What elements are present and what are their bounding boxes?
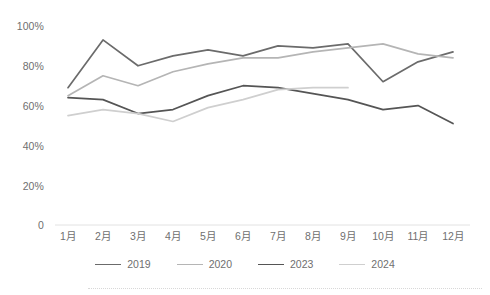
x-tick-label: 4月 [156,228,190,243]
x-tick-label: 12月 [436,228,470,243]
x-tick-label: 7月 [261,228,295,243]
legend-swatch-icon [177,264,203,265]
legend-item-2023[interactable]: 2023 [258,258,313,270]
x-tick-label: 2月 [86,228,120,243]
x-tick-label: 9月 [331,228,365,243]
legend-item-2024[interactable]: 2024 [339,258,394,270]
plot-area [0,0,490,295]
legend-swatch-icon [258,264,284,265]
x-tick-label: 6月 [226,228,260,243]
legend-swatch-icon [95,264,121,265]
chart-legend: 2019 2020 2023 2024 [0,258,490,270]
legend-label: 2024 [371,258,394,270]
x-tick-label: 8月 [296,228,330,243]
x-tick-label: 11月 [401,228,435,243]
line-chart: 100% 80% 60% 40% 20% 0 1月 2月 3月 4月 5月 6月… [0,0,490,295]
x-tick-label: 10月 [366,228,400,243]
legend-item-2020[interactable]: 2020 [177,258,232,270]
bottom-divider [88,288,482,290]
legend-swatch-icon [339,264,365,265]
series-line-2023 [68,86,453,124]
x-tick-label: 3月 [121,228,155,243]
x-tick-label: 5月 [191,228,225,243]
legend-label: 2023 [290,258,313,270]
legend-label: 2019 [127,258,150,270]
legend-label: 2020 [209,258,232,270]
x-tick-label: 1月 [51,228,85,243]
legend-item-2019[interactable]: 2019 [95,258,150,270]
